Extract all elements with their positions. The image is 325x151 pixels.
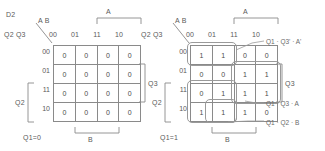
kmap-q1-0-cell-r0-c2: 0	[98, 46, 120, 65]
left-col-header-10: 10	[108, 31, 130, 38]
kmap-q1-0-cell-r1-c0: 0	[54, 65, 76, 84]
left-bracket-label-b: B	[88, 136, 93, 143]
right-bracket-b	[212, 127, 256, 133]
right-bracket-label-a: A	[243, 8, 248, 15]
figure-title-d2: D2	[6, 11, 15, 18]
group-outline-q1-q2-b	[205, 99, 237, 123]
left-bracket-a	[97, 18, 141, 24]
right-row-header-00: 00	[173, 48, 187, 55]
left-col-header-01: 01	[64, 31, 86, 38]
right-row-header-10: 10	[173, 105, 187, 112]
kmap-q1-0-cell-r1-c1: 0	[76, 65, 98, 84]
left-row-header-11: 11	[36, 86, 50, 93]
annotation-term-2: Q1 · Q3 · A	[266, 100, 299, 107]
kmap-q1-0-cell-r2-c2: 0	[98, 84, 120, 103]
kmap-grid-q1-0: 0000000000000000	[53, 45, 141, 122]
kmap-q1-0-cell-r1-c2: 0	[98, 65, 120, 84]
kmap-q1-0-cell-r2-c1: 0	[76, 84, 98, 103]
left-map-caption: Q1=0	[23, 134, 41, 141]
left-row-header-01: 01	[36, 67, 50, 74]
annotation-term-3: Q1 · Q2 · B	[266, 119, 299, 126]
right-row-var-label: Q2 Q3	[141, 31, 163, 38]
left-col-var-label: A B	[38, 17, 50, 24]
kmap-q1-0-cell-r3-c2: 0	[98, 103, 120, 122]
kmap-q1-0-cell-r2-c3: 0	[119, 84, 141, 103]
right-bracket-label-q3: Q3	[285, 80, 295, 87]
right-col-var-label: A B	[175, 17, 187, 24]
kmap-q1-0-cell-r3-c3: 0	[119, 103, 141, 122]
right-bracket-a	[234, 18, 278, 24]
left-row-var-label: Q2 Q3	[4, 31, 26, 38]
annotation-term-1: Q1 · Q3' · A'	[266, 38, 301, 45]
right-col-header-01: 01	[201, 31, 223, 38]
left-bracket-label-a: A	[106, 8, 111, 15]
kmap-figure: D2 A B Q2 Q3 00 01 11 10 00 01 11 10 000…	[0, 0, 325, 151]
right-col-header-10: 10	[245, 31, 267, 38]
right-col-header-00: 00	[179, 31, 201, 38]
kmap-q1-0-cell-r0-c0: 0	[54, 46, 76, 65]
right-bracket-q2	[165, 83, 171, 122]
kmap-q1-0-cell-r2-c0: 0	[54, 84, 76, 103]
group-outline-q1-q3-a	[231, 61, 281, 104]
right-bracket-label-q2: Q2	[152, 99, 162, 106]
right-row-header-01: 01	[173, 67, 187, 74]
kmap-q1-0-cell-r1-c3: 0	[119, 65, 141, 84]
kmap-q1-0-cell-r0-c1: 0	[76, 46, 98, 65]
kmap-q1-0-cell-r3-c1: 0	[76, 103, 98, 122]
left-bracket-label-q2: Q2	[15, 99, 25, 106]
right-row-header-11: 11	[173, 86, 187, 93]
left-col-header-11: 11	[86, 31, 108, 38]
left-bracket-b	[75, 127, 119, 133]
kmap-q1-1-cell-r3-c2: 1	[235, 103, 257, 122]
left-row-header-10: 10	[36, 105, 50, 112]
left-col-header-00: 00	[42, 31, 64, 38]
left-bracket-q2	[28, 83, 34, 122]
kmap-q1-0-cell-r0-c3: 0	[119, 46, 141, 65]
left-bracket-label-q3: Q3	[148, 80, 158, 87]
right-map-caption: Q1=1	[160, 134, 178, 141]
left-row-header-00: 00	[36, 48, 50, 55]
group-outline-q1-q3n-an	[187, 42, 237, 66]
right-bracket-label-b: B	[225, 136, 230, 143]
kmap-q1-0-cell-r3-c0: 0	[54, 103, 76, 122]
right-col-header-11: 11	[223, 31, 245, 38]
